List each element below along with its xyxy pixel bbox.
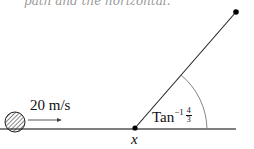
- velocity-arrow-icon: [28, 118, 62, 122]
- base-point-dot: [132, 125, 137, 130]
- angle-exponent: −1: [174, 107, 184, 117]
- top-point-dot: [233, 9, 239, 15]
- projectile-diagram: path and the horizontal. 20 m/s x Tan−14…: [0, 0, 254, 149]
- ball-icon: [5, 112, 25, 132]
- fraction-denominator: 3: [186, 116, 192, 124]
- speed-label: 20 m/s: [30, 97, 70, 114]
- point-x-label: x: [131, 131, 138, 148]
- angle-fraction: 43: [186, 107, 192, 124]
- diagram-canvas: [0, 0, 254, 149]
- angle-label: Tan−143: [152, 108, 192, 127]
- angle-prefix: Tan: [152, 109, 174, 125]
